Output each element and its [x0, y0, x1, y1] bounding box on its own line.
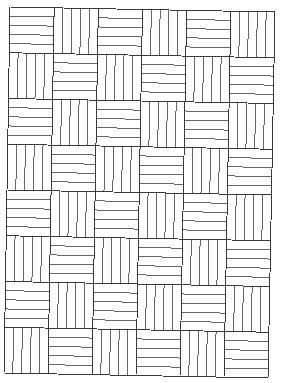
strip-line: [113, 146, 114, 192]
strip-line: [224, 368, 268, 369]
strip-line: [101, 329, 102, 375]
strip-line: [5, 291, 49, 292]
strip-line: [44, 53, 45, 99]
strip-line: [215, 331, 216, 377]
strip-line: [189, 331, 190, 377]
strip-line: [225, 350, 269, 351]
strip-line: [198, 331, 199, 377]
strip-line: [140, 156, 184, 157]
strip-line: [253, 195, 254, 241]
strip-line: [111, 238, 112, 284]
strip-line: [177, 10, 178, 56]
strip-line: [138, 257, 182, 258]
strip-line: [185, 111, 229, 112]
strip-line: [234, 286, 235, 332]
strip-line: [183, 202, 227, 203]
strip-line: [186, 29, 230, 30]
strip-line: [226, 258, 270, 259]
strip-line: [30, 328, 31, 374]
strip-line: [118, 329, 119, 375]
strip-line: [185, 129, 229, 130]
strip-line: [95, 201, 139, 202]
strip-line: [50, 273, 94, 274]
strip-line: [96, 128, 140, 129]
strip-line: [181, 312, 225, 313]
strip-line: [10, 34, 54, 35]
strip-line: [248, 12, 249, 58]
strip-line: [41, 236, 42, 282]
strip-line: [228, 158, 272, 159]
strip-line: [52, 163, 96, 164]
strip-line: [138, 266, 182, 267]
strip-line: [255, 103, 256, 149]
strip-line: [53, 81, 97, 82]
strip-line: [208, 240, 209, 286]
strip-line: [174, 193, 175, 239]
strip-line: [181, 303, 225, 304]
strip-line: [61, 100, 62, 146]
strip-line: [217, 240, 218, 286]
strip-line: [156, 193, 157, 239]
strip-line: [35, 53, 36, 99]
strip-line: [136, 357, 180, 358]
strip-line: [98, 36, 142, 37]
strip-line: [48, 346, 92, 347]
strip-line: [96, 118, 140, 119]
strip-line: [163, 285, 164, 331]
strip-line: [95, 210, 139, 211]
strip-line: [98, 18, 142, 19]
strip-line: [25, 145, 26, 191]
strip-line: [50, 246, 94, 247]
strip-line: [96, 137, 140, 138]
strip-line: [159, 10, 160, 56]
strip-line: [186, 38, 230, 39]
strip-line: [228, 176, 272, 177]
strip-line: [129, 238, 130, 284]
strip-line: [93, 292, 137, 293]
strip-line: [13, 327, 14, 373]
strip-line: [53, 90, 97, 91]
strip-line: [7, 217, 51, 218]
strip-line: [53, 63, 97, 64]
strip-line: [265, 12, 266, 58]
strip-line: [239, 11, 240, 57]
strip-line: [7, 208, 51, 209]
strip-line: [78, 100, 79, 146]
strip-line: [141, 92, 185, 93]
strip-line: [229, 84, 273, 85]
strip-line: [70, 100, 71, 146]
strip-line: [51, 173, 95, 174]
strip-line: [8, 126, 52, 127]
strip-line: [147, 193, 148, 239]
strip-line: [185, 120, 229, 121]
strip-line: [48, 365, 92, 366]
strip-line: [132, 55, 133, 101]
strip-line: [225, 341, 269, 342]
strip-line: [10, 25, 54, 26]
strip-line: [186, 47, 230, 48]
strip-line: [110, 329, 111, 375]
strip-line: [42, 145, 43, 191]
basket-weave-pattern: [0, 0, 283, 383]
strip-line: [16, 144, 17, 190]
strip-line: [120, 238, 121, 284]
strip-line: [229, 94, 273, 95]
strip-line: [242, 286, 243, 332]
strip-line: [62, 8, 63, 54]
strip-line: [87, 100, 88, 146]
strip-line: [26, 53, 27, 99]
strip-line: [158, 101, 159, 147]
strip-line: [210, 148, 211, 194]
strip-line: [7, 199, 51, 200]
strip-line: [199, 239, 200, 285]
strip-line: [190, 239, 191, 285]
strip-line: [183, 221, 227, 222]
strip-line: [246, 103, 247, 149]
strip-line: [175, 102, 176, 148]
strip-line: [95, 219, 139, 220]
strip-line: [17, 53, 18, 99]
strip-line: [219, 148, 220, 194]
strip-line: [154, 284, 155, 330]
strip-line: [5, 318, 49, 319]
strip-line: [260, 286, 261, 332]
